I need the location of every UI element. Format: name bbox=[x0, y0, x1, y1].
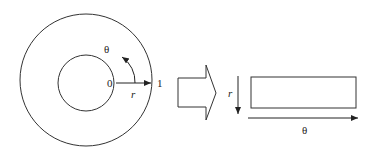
angular-arrow bbox=[122, 57, 135, 83]
rectangle-domain: r θ bbox=[228, 76, 358, 136]
r-axis-label: r bbox=[228, 87, 233, 99]
inner-circle bbox=[58, 55, 114, 111]
radial-label: r bbox=[131, 88, 136, 100]
polar-to-rectangular-diagram: 0 1 r θ r θ bbox=[0, 0, 372, 150]
block-arrow-right-icon bbox=[178, 65, 216, 120]
outer-radius-label: 1 bbox=[157, 77, 163, 89]
domain-rectangle bbox=[251, 77, 356, 108]
center-label: 0 bbox=[107, 77, 113, 89]
theta-axis-label: θ bbox=[302, 124, 307, 136]
annulus: 0 1 r θ bbox=[20, 14, 163, 146]
angular-label: θ bbox=[104, 43, 109, 55]
outer-circle bbox=[20, 14, 152, 146]
